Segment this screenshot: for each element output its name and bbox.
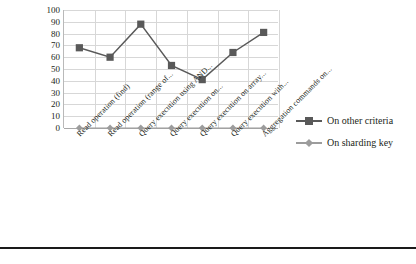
legend-marker-icon <box>296 115 322 127</box>
y-axis: 1009080706050403020100 <box>36 10 60 128</box>
legend-label: On other criteria <box>327 115 393 126</box>
data-point-marker <box>168 62 175 69</box>
legend-label: On sharding key <box>327 137 393 148</box>
y-tick-label: 70 <box>51 41 60 50</box>
footer-divider <box>0 247 416 249</box>
y-tick-label: 40 <box>51 76 60 85</box>
y-tick-label: 100 <box>47 6 61 15</box>
data-point-marker <box>260 29 267 36</box>
chart-legend: On other criteriaOn sharding key <box>296 112 416 156</box>
y-tick-label: 10 <box>51 112 60 121</box>
y-tick-label: 30 <box>51 88 60 97</box>
data-point-marker <box>106 54 113 61</box>
data-point-marker <box>76 44 83 51</box>
data-point-marker <box>229 49 236 56</box>
chart-figure: 1009080706050403020100 Read operation (f… <box>0 0 416 264</box>
y-tick-label: 50 <box>51 65 60 74</box>
y-tick-label: 90 <box>51 17 60 26</box>
footer-ghost-text <box>4 252 334 261</box>
y-tick-label: 20 <box>51 100 60 109</box>
legend-item[interactable]: On other criteria <box>296 112 416 129</box>
legend-marker-icon <box>296 137 322 149</box>
legend-item[interactable]: On sharding key <box>296 134 416 151</box>
y-tick-label: 80 <box>51 29 60 38</box>
y-tick-label: 60 <box>51 53 60 62</box>
data-point-marker <box>137 21 144 28</box>
x-axis: Read operation (find)Read operation (ran… <box>0 128 290 238</box>
chart-plot-wrapper: 1009080706050403020100 Read operation (f… <box>0 0 290 140</box>
